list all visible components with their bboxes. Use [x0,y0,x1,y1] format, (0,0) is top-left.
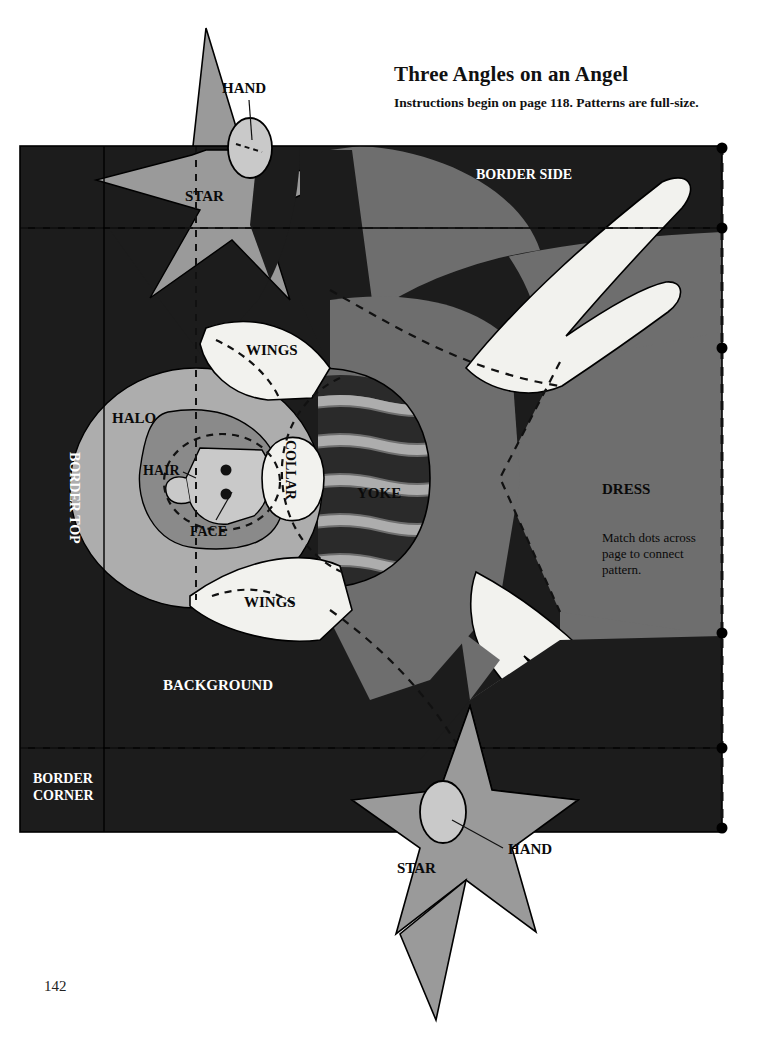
registration-dot [717,628,728,639]
page-number: 142 [44,978,67,995]
face-eye-dot [221,465,232,476]
face-shape [186,448,270,524]
pattern-page: Three Angles on an Angel Instructions be… [0,0,767,1039]
background-bottom [20,700,420,832]
registration-dot [717,743,728,754]
hand-bottom-shape [420,781,466,843]
hand-top-shape [228,118,272,178]
match-dots-note: Match dots across page to connect patter… [602,530,722,578]
face-ear-left [166,477,190,504]
registration-dot [717,143,728,154]
registration-dot [717,343,728,354]
main-panel [20,146,722,840]
registration-dot [717,823,728,834]
page-subtitle: Instructions begin on page 118. Patterns… [394,95,734,111]
registration-dot [717,223,728,234]
face-eye-dot [221,489,232,500]
pattern-artwork [0,0,767,1039]
page-title: Three Angles on an Angel [394,62,734,87]
